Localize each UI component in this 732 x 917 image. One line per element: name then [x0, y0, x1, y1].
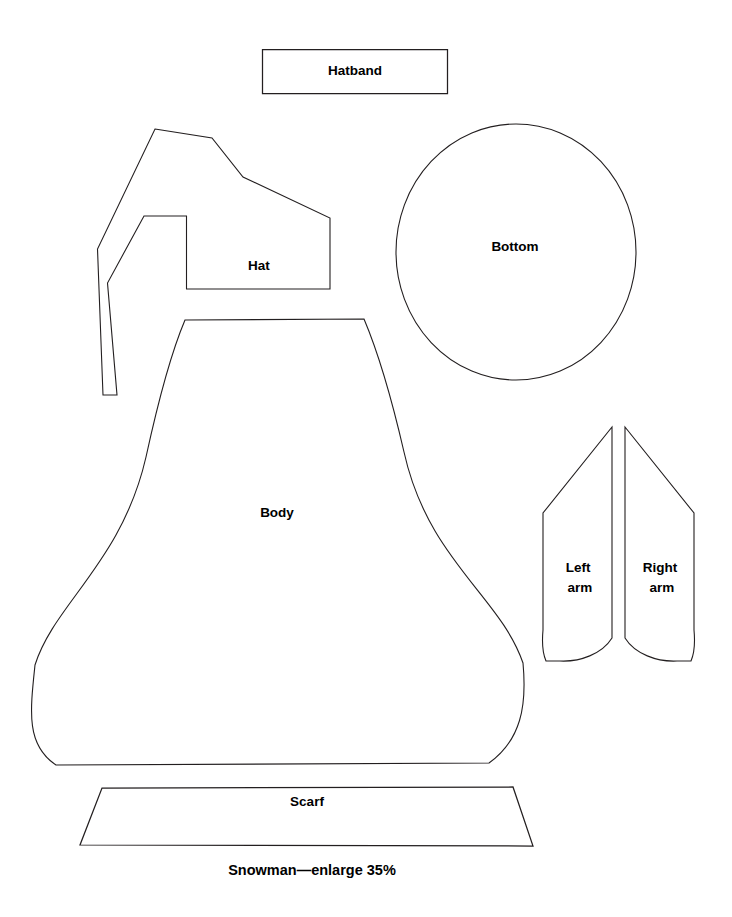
- hat-label-text: Hat: [248, 258, 270, 273]
- bottom-label-text: Bottom: [491, 239, 538, 254]
- scarf-label-text: Scarf: [290, 794, 324, 809]
- piece-scarf: Scarf: [80, 787, 533, 846]
- right-arm-outline: [625, 427, 695, 661]
- piece-hatband: Hatband: [263, 50, 448, 94]
- left-arm-label-line1: Left: [566, 560, 591, 575]
- sheet-caption: Snowman—enlarge 35%: [228, 862, 396, 878]
- hat-label: Hat: [248, 258, 270, 273]
- piece-left-arm: Left arm: [542, 427, 612, 661]
- right-arm-label-line1: Right: [643, 560, 678, 575]
- hatband-label-text: Hatband: [328, 63, 382, 78]
- body-label: Body: [260, 505, 294, 520]
- body-label-text: Body: [260, 505, 294, 520]
- pattern-canvas: Hatband Hat Bottom Body: [0, 0, 732, 917]
- bottom-label: Bottom: [491, 239, 538, 254]
- left-arm-label-line2: arm: [568, 580, 593, 595]
- left-arm-outline: [542, 427, 612, 661]
- hatband-label: Hatband: [328, 63, 382, 78]
- right-arm-label-line2: arm: [650, 580, 675, 595]
- scarf-label: Scarf: [290, 794, 324, 809]
- sheet-caption-text: Snowman—enlarge 35%: [228, 862, 396, 878]
- pattern-sheet: Hatband Hat Bottom Body: [0, 0, 732, 917]
- piece-right-arm: Right arm: [625, 427, 695, 661]
- piece-bottom: Bottom: [396, 124, 636, 380]
